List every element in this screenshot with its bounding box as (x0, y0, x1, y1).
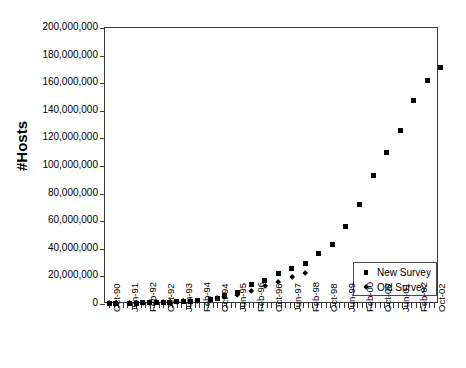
y-axis-tick-label: 180,000,000 (0, 50, 98, 60)
x-axis-tick (393, 302, 394, 308)
x-axis-tick-label: Jun-01 (401, 283, 411, 312)
y-axis-tick (100, 304, 105, 305)
data-point-new-survey (357, 202, 362, 207)
x-axis-tick (411, 302, 412, 308)
x-axis-tick-label: Oct-92 (166, 283, 176, 312)
data-point-new-survey (438, 65, 443, 70)
y-axis-tick (100, 111, 105, 112)
y-axis-tick-label: 60,000,000 (0, 215, 98, 225)
y-axis-tick-label: 20,000,000 (0, 270, 98, 280)
data-point-new-survey (316, 251, 321, 256)
y-axis-tick (100, 221, 105, 222)
y-axis-tick-label: 80,000,000 (0, 188, 98, 198)
data-point-new-survey (276, 271, 281, 276)
x-axis-tick (362, 302, 363, 308)
data-point-new-survey (425, 78, 430, 83)
data-point-new-survey (303, 261, 308, 266)
x-axis-tick-label: Jun-93 (184, 283, 194, 312)
data-point-new-survey (343, 224, 348, 229)
x-axis-tick (434, 302, 435, 308)
y-axis-tick-label: 100,000,000 (0, 160, 98, 170)
x-axis-tick (357, 302, 358, 308)
x-axis-tick-label: Feb-96 (256, 282, 266, 312)
x-axis-tick-label: Jun-91 (130, 283, 140, 312)
x-axis-tick-label: Oct-02 (437, 283, 447, 312)
y-axis-tick (100, 83, 105, 84)
legend-item-new-survey: New Survey (359, 266, 431, 279)
y-axis-tick-label: 0 (0, 298, 98, 308)
x-axis-tick (326, 302, 327, 308)
data-point-new-survey (411, 98, 416, 103)
y-axis-tick (100, 138, 105, 139)
data-point-new-survey (249, 282, 254, 287)
legend-label-new-survey: New Survey (377, 267, 431, 278)
x-axis-tick (308, 302, 309, 308)
x-axis-tick (231, 302, 232, 308)
x-axis-tick (429, 302, 430, 308)
x-axis-tick (344, 302, 345, 308)
x-axis-tick (290, 302, 291, 308)
y-axis-tick-label: 160,000,000 (0, 77, 98, 87)
x-axis-tick (123, 302, 124, 308)
y-axis-tick-labels: 020,000,00040,000,00060,000,00080,000,00… (0, 0, 98, 368)
data-point-new-survey (289, 266, 294, 271)
x-axis-tick-label: Jun-99 (347, 283, 357, 312)
data-point-new-survey (384, 150, 389, 155)
plot-area-frame: New Survey Old Survey (104, 27, 438, 303)
data-point-old-survey (248, 288, 254, 294)
data-point-new-survey (330, 242, 335, 247)
y-axis-tick (100, 194, 105, 195)
x-axis-tick (303, 302, 304, 308)
x-axis-tick-label: Oct-94 (220, 283, 230, 312)
x-axis-tick-label: Feb-98 (311, 282, 321, 312)
y-axis-tick (100, 56, 105, 57)
y-axis-tick (100, 249, 105, 250)
x-axis-tick (213, 302, 214, 308)
data-point-old-survey (302, 271, 308, 277)
data-point-old-survey (289, 274, 295, 280)
x-axis-tick (321, 302, 322, 308)
x-axis-tick (375, 302, 376, 308)
y-axis-tick (100, 276, 105, 277)
x-axis-tick (380, 302, 381, 308)
x-axis-tick-label: Feb-02 (419, 282, 429, 312)
x-axis-tick-label: Jun-95 (238, 283, 248, 312)
x-axis-tick (398, 302, 399, 308)
x-axis-tick (267, 302, 268, 308)
x-axis-tick-label: Oct-96 (274, 283, 284, 312)
plot-area (105, 28, 437, 302)
x-axis-tick-label: Jun-97 (293, 283, 303, 312)
x-axis-tick (285, 302, 286, 308)
x-axis-tick-label: Feb-94 (202, 282, 212, 312)
y-axis-tick (100, 166, 105, 167)
x-axis-tick (249, 302, 250, 308)
x-axis-tick-label: Oct-00 (383, 283, 393, 312)
x-axis-tick-label: Oct-98 (329, 283, 339, 312)
data-point-new-survey (398, 128, 403, 133)
hosts-growth-chart: #Hosts 020,000,00040,000,00060,000,00080… (0, 0, 466, 368)
y-axis-tick-label: 140,000,000 (0, 105, 98, 115)
x-axis-tick-label: Oct-90 (112, 283, 122, 312)
y-axis-tick-label: 120,000,000 (0, 132, 98, 142)
x-axis-tick (339, 302, 340, 308)
x-axis-tick-label: Feb-92 (148, 282, 158, 312)
y-axis-tick-label: 200,000,000 (0, 22, 98, 32)
square-marker-icon (359, 270, 373, 275)
data-point-new-survey (371, 173, 376, 178)
x-axis-tick (416, 302, 417, 308)
x-axis-tick-label: Feb-00 (365, 282, 375, 312)
y-axis-tick (100, 28, 105, 29)
y-axis-tick-label: 40,000,000 (0, 243, 98, 253)
